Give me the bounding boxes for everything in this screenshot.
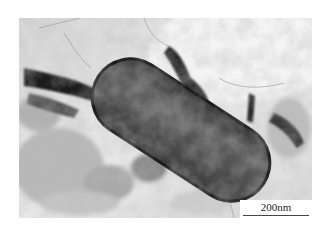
scale-bar: 200nm [240, 200, 312, 218]
micrograph-image [19, 18, 312, 218]
tem-micrograph: 200nm [19, 18, 312, 218]
scale-bar-label: 200nm [240, 201, 312, 213]
scale-bar-line [243, 215, 309, 216]
